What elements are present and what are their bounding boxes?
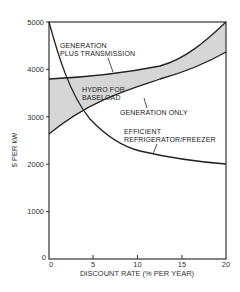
- hydro-baseload-band: [49, 22, 226, 134]
- y-tick-5000: 5000: [27, 18, 44, 27]
- y-tick-1000: 1000: [27, 207, 44, 216]
- y-axis-title: $ PER kW: [10, 132, 19, 168]
- y-tick-2000: 2000: [27, 160, 44, 169]
- arrow-efficient-refrigerator: [153, 144, 157, 154]
- label-line: HYDRO FOR: [82, 86, 125, 93]
- x-tick-20: 20: [222, 260, 230, 269]
- x-tick-15: 15: [178, 260, 186, 269]
- x-axis-title: DISCOUNT RATE (% PER YEAR): [80, 269, 195, 278]
- arrow-generation-plus-transmission: [108, 58, 113, 72]
- x-tick-0: 0: [49, 260, 53, 269]
- discount-rate-chart: 5000 4000 3000 2000 1000 0 0 5 10 15 20 …: [0, 0, 240, 292]
- label-generation-only: GENERATION ONLY: [120, 109, 188, 116]
- label-line: PLUS TRANSMISSION: [60, 50, 135, 57]
- label-line: REFRIGERATOR/FREEZER: [124, 136, 216, 143]
- x-tick-10: 10: [133, 260, 141, 269]
- label-hydro-baseload: HYDRO FOR BASELOAD: [82, 86, 127, 101]
- y-tick-3000: 3000: [27, 113, 44, 122]
- x-axis-ticks: [93, 255, 182, 259]
- y-tick-4000: 4000: [27, 65, 44, 74]
- x-tick-5: 5: [91, 260, 95, 269]
- label-efficient-refrigerator: EFFICIENT REFRIGERATOR/FREEZER: [124, 128, 216, 143]
- label-line: EFFICIENT: [124, 128, 162, 135]
- label-line: BASELOAD: [82, 94, 121, 101]
- y-tick-0: 0: [42, 253, 46, 262]
- arrow-generation-only: [144, 98, 147, 108]
- label-generation-plus-transmission: GENERATION PLUS TRANSMISSION: [60, 42, 135, 57]
- label-line: GENERATION: [60, 42, 107, 49]
